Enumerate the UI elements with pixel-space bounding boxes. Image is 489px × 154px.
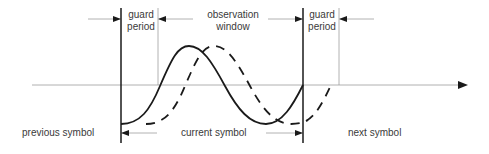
arrow-left-icon [158,16,166,22]
label-line: observation [200,9,266,21]
guard-period-left-label: guard period [126,9,156,33]
label-line: period [126,21,156,33]
arrow-right-icon [295,130,303,136]
arrow-right-icon [295,16,303,22]
label-line: guard [126,9,156,21]
label-line: period [307,21,337,33]
label-line: guard [307,9,337,21]
next-symbol-label: next symbol [348,127,401,139]
label-line: window [200,21,266,33]
arrow-right-icon [113,16,121,22]
guard-period-right-label: guard period [307,9,337,33]
current-symbol-label: current symbol [181,127,247,139]
axis-arrow-icon [458,81,468,89]
previous-symbol-label: previous symbol [22,127,94,139]
dashed-waveform-tail [306,85,331,121]
observation-window-label: observation window [200,9,266,33]
arrow-left-icon [339,16,347,22]
arrow-left-icon [121,130,129,136]
